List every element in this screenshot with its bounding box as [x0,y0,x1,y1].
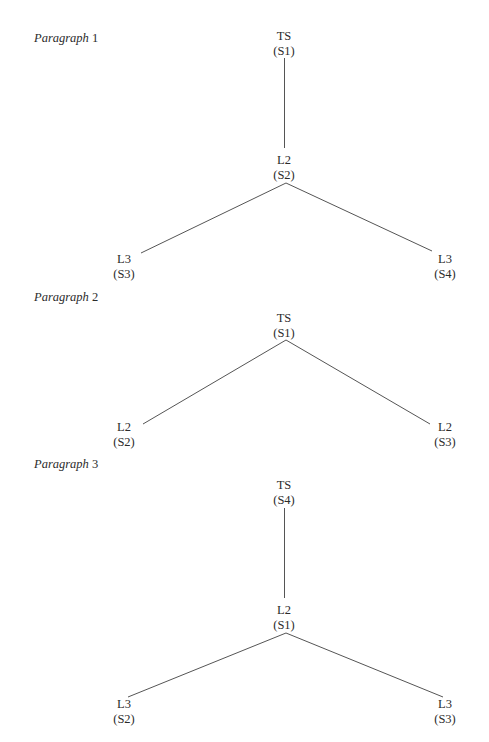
node-sentence: (S3) [415,712,475,727]
node-sentence: (S2) [94,435,154,450]
edge-p2-root-right [286,340,430,424]
edge-p1-mid-right [286,183,432,251]
node-sentence: (S1) [254,44,314,59]
p2-node-left: L2 (S2) [94,420,154,449]
node-sentence: (S4) [254,493,314,508]
node-level: L3 [415,252,475,267]
node-sentence: (S1) [254,618,314,633]
node-sentence: (S3) [94,267,154,282]
node-level: TS [254,478,314,493]
p1-node-left: L3 (S3) [94,252,154,281]
paragraph-1-label: Paragraph 1 [34,31,98,46]
p1-node-right: L3 (S4) [415,252,475,281]
p3-node-right: L3 (S3) [415,697,475,726]
node-level: L2 [94,420,154,435]
paragraph-word: Paragraph [34,457,89,471]
node-level: L3 [94,252,154,267]
p1-node-mid: L2 (S2) [254,153,314,182]
p1-node-root: TS (S1) [254,29,314,58]
p3-node-left: L3 (S2) [94,697,154,726]
p3-node-mid: L2 (S1) [254,603,314,632]
node-level: L3 [94,697,154,712]
p2-node-right: L2 (S3) [415,420,475,449]
node-sentence: (S2) [94,712,154,727]
edge-p2-root-left [143,340,286,424]
p2-node-root: TS (S1) [254,311,314,340]
paragraph-word: Paragraph [34,31,89,45]
p3-node-root: TS (S4) [254,478,314,507]
node-level: L2 [254,603,314,618]
edge-p3-mid-left [128,633,286,697]
node-sentence: (S4) [415,267,475,282]
node-sentence: (S1) [254,326,314,341]
node-sentence: (S2) [254,168,314,183]
paragraph-2-label: Paragraph 2 [34,290,98,305]
node-level: L3 [415,697,475,712]
paragraph-number: 1 [92,31,98,45]
node-sentence: (S3) [415,435,475,450]
paragraph-3-label: Paragraph 3 [34,457,98,472]
node-level: TS [254,29,314,44]
edge-p3-mid-right [286,633,443,697]
edge-p1-mid-left [141,183,286,253]
node-level: L2 [254,153,314,168]
paragraph-number: 2 [92,290,98,304]
paragraph-number: 3 [92,457,98,471]
tree-edges [0,0,489,742]
node-level: L2 [415,420,475,435]
paragraph-word: Paragraph [34,290,89,304]
node-level: TS [254,311,314,326]
